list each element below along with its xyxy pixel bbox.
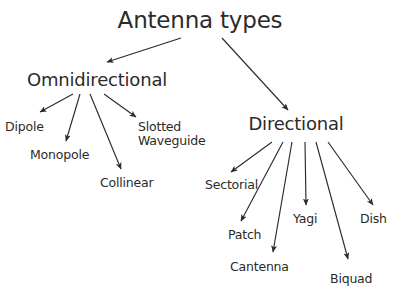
node-patch: Patch <box>228 228 261 242</box>
node-monopole: Monopole <box>30 148 89 162</box>
edge-omnidirectional-to-monopole <box>66 94 80 141</box>
edge-directional-to-biquad <box>316 142 348 259</box>
edge-directional-to-cantenna <box>273 142 292 252</box>
node-yagi: Yagi <box>293 212 317 226</box>
node-collinear: Collinear <box>100 176 153 190</box>
edge-directional-to-dish <box>328 142 373 205</box>
edge-root-to-omnidirectional <box>107 38 181 62</box>
antenna-types-diagram: Antenna types Omnidirectional Directiona… <box>0 0 402 294</box>
edge-directional-to-sectorial <box>231 142 272 172</box>
edge-omnidirectional-to-slotted_waveguide <box>104 94 136 117</box>
edge-omnidirectional-to-dipole <box>40 94 73 112</box>
node-dipole: Dipole <box>5 120 44 134</box>
node-cantenna: Cantenna <box>230 260 289 274</box>
node-biquad: Biquad <box>330 272 372 286</box>
node-omnidirectional: Omnidirectional <box>27 70 167 90</box>
edge-directional-to-yagi <box>305 142 306 205</box>
node-antenna-types: Antenna types <box>118 8 283 34</box>
node-sectorial: Sectorial <box>205 178 258 192</box>
edge-omnidirectional-to-collinear <box>90 94 121 169</box>
node-slotted-waveguide: Slotted Waveguide <box>138 120 205 148</box>
node-dish: Dish <box>360 212 387 226</box>
node-directional: Directional <box>248 114 343 134</box>
edge-root-to-directional <box>222 38 288 110</box>
